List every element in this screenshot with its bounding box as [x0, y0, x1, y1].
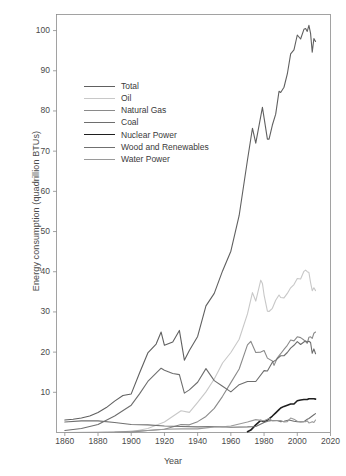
y-axis-tick-label: 60 — [24, 187, 50, 196]
series-line — [247, 399, 315, 432]
legend-line-swatch — [84, 122, 115, 123]
legend-line-swatch — [84, 159, 115, 160]
series-line — [65, 270, 316, 432]
x-axis-tick-label: 1960 — [221, 437, 240, 446]
legend-item[interactable]: Oil — [84, 92, 209, 104]
x-axis-tick-label: 1940 — [188, 437, 207, 446]
x-axis-tick-label: 2000 — [288, 437, 307, 446]
x-axis-tick-label: 1860 — [55, 437, 74, 446]
legend-line-swatch — [84, 134, 115, 135]
y-axis-tick-label: 70 — [24, 147, 50, 156]
legend-item[interactable]: Coal — [84, 117, 209, 129]
y-axis-tick-label: 10 — [24, 388, 50, 397]
x-axis-tick-label: 1880 — [89, 437, 108, 446]
x-axis-tick-label: 1980 — [255, 437, 274, 446]
x-axis-tick-label: 2020 — [321, 437, 340, 446]
legend-line-swatch — [84, 98, 115, 99]
y-axis-tick-label: 40 — [24, 267, 50, 276]
x-axis-tick-label: 1900 — [122, 437, 141, 446]
legend-line-swatch — [84, 147, 115, 148]
y-axis-tick-label: 20 — [24, 348, 50, 357]
legend-item[interactable]: Natural Gas — [84, 104, 209, 116]
y-axis-tick-label: 90 — [24, 66, 50, 75]
x-axis-tick-label: 1920 — [155, 437, 174, 446]
legend-item[interactable]: Nuclear Power — [84, 129, 209, 141]
axis-frame — [57, 15, 331, 433]
series-line — [65, 341, 316, 431]
legend-item[interactable]: Total — [84, 80, 209, 92]
series-line — [65, 332, 316, 432]
legend-line-swatch — [84, 86, 115, 87]
x-axis-title: Year — [0, 456, 346, 466]
legend-item[interactable]: Water Power — [84, 153, 209, 165]
chart-legend: TotalOilNatural GasCoalNuclear PowerWood… — [84, 80, 209, 165]
legend-label: Total — [121, 82, 139, 91]
y-axis-tick-labels: 102030405060708090100 — [22, 0, 50, 476]
legend-label: Oil — [121, 94, 131, 103]
y-axis-tick-label: 80 — [24, 106, 50, 115]
legend-label: Wood and Renewables — [121, 143, 209, 152]
x-axis-tick-labels: 186018801900192019401960198020002020 — [0, 437, 346, 451]
energy-consumption-chart: Energy consumption (quadrillion BTUs) 10… — [0, 0, 346, 476]
y-axis-tick-label: 50 — [24, 227, 50, 236]
legend-label: Coal — [121, 118, 138, 127]
legend-label: Water Power — [121, 155, 170, 164]
series-line — [65, 418, 316, 432]
y-axis-tick-label: 30 — [24, 307, 50, 316]
legend-label: Nuclear Power — [121, 131, 177, 140]
plot-area — [0, 0, 346, 476]
y-axis-tick-label: 100 — [24, 26, 50, 35]
legend-item[interactable]: Wood and Renewables — [84, 141, 209, 153]
legend-label: Natural Gas — [121, 106, 166, 115]
legend-line-swatch — [84, 110, 115, 111]
